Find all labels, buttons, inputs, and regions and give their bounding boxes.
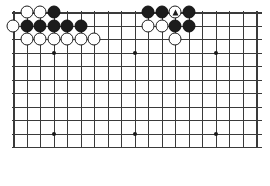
stone-black[interactable] xyxy=(34,19,47,32)
stone-black[interactable] xyxy=(182,6,195,19)
stone-white[interactable] xyxy=(169,33,182,46)
grid-line-horizontal xyxy=(12,107,262,108)
stone-black[interactable] xyxy=(47,6,60,19)
stone-white[interactable] xyxy=(142,19,155,32)
star-point xyxy=(133,132,137,136)
stone-white[interactable] xyxy=(88,33,101,46)
stone-black[interactable] xyxy=(74,19,87,32)
stone-white-marked[interactable] xyxy=(169,6,182,19)
stone-black[interactable] xyxy=(61,19,74,32)
stone-white[interactable] xyxy=(20,6,33,19)
stone-white[interactable] xyxy=(61,33,74,46)
go-board-container xyxy=(0,0,270,155)
grid-line-horizontal xyxy=(12,147,262,148)
stone-white[interactable] xyxy=(34,33,47,46)
go-board[interactable] xyxy=(12,11,262,147)
stone-white[interactable] xyxy=(74,33,87,46)
stone-black[interactable] xyxy=(20,19,33,32)
stone-black[interactable] xyxy=(169,19,182,32)
grid-line-horizontal xyxy=(12,53,262,54)
star-point xyxy=(214,132,218,136)
stone-black[interactable] xyxy=(155,6,168,19)
grid-line-horizontal xyxy=(12,80,262,81)
stone-white[interactable] xyxy=(34,6,47,19)
star-point xyxy=(52,132,56,136)
star-point xyxy=(52,51,56,55)
stone-white[interactable] xyxy=(7,19,20,32)
stone-black[interactable] xyxy=(182,19,195,32)
grid-line-horizontal xyxy=(12,66,262,67)
diagram-page xyxy=(0,0,270,186)
star-point xyxy=(133,51,137,55)
stone-black[interactable] xyxy=(47,19,60,32)
stone-black[interactable] xyxy=(142,6,155,19)
grid-line-horizontal xyxy=(12,134,262,135)
triangle-mark-icon xyxy=(172,9,178,15)
stone-white[interactable] xyxy=(155,19,168,32)
grid-line-horizontal xyxy=(12,93,262,94)
stone-white[interactable] xyxy=(20,33,33,46)
caption-area xyxy=(0,155,270,186)
star-point xyxy=(214,51,218,55)
grid-line-horizontal xyxy=(12,120,262,121)
stone-white[interactable] xyxy=(47,33,60,46)
